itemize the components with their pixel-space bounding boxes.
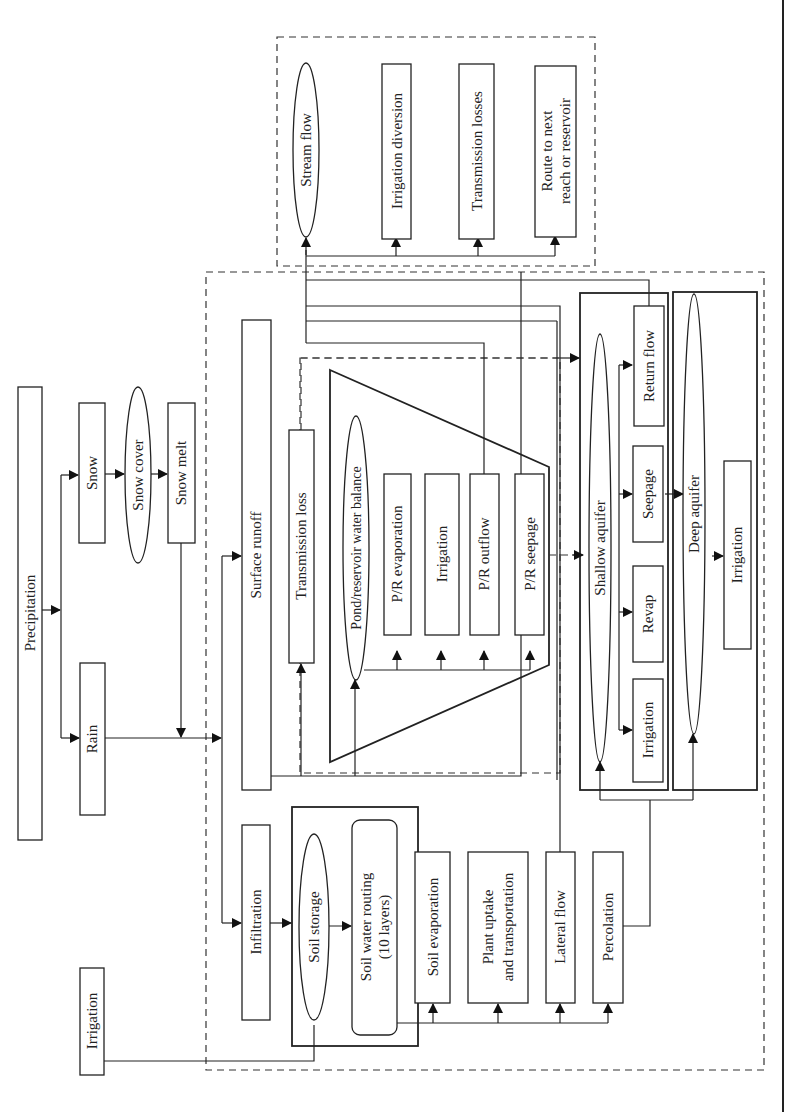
svg-text:Seepage: Seepage <box>640 469 656 519</box>
plant-uptake-box: Plant uptake and transportation <box>468 852 528 1003</box>
precipitation-box: Precipitation <box>18 387 42 840</box>
lateral-flow-box: Lateral flow <box>546 852 575 1003</box>
svg-text:Return flow: Return flow <box>641 330 657 402</box>
stream-flow-ellipse: Stream flow <box>293 63 319 237</box>
svg-text:Deep aquifer: Deep aquifer <box>686 475 702 553</box>
deep-aquifer-ellipse: Deep aquifer <box>683 294 705 734</box>
svg-text:Surface runoff: Surface runoff <box>248 512 264 599</box>
svg-text:Soil evaporation: Soil evaporation <box>425 877 441 976</box>
snow-cover-ellipse: Snow cover <box>125 387 151 563</box>
svg-text:Irrigation: Irrigation <box>434 525 450 582</box>
svg-text:and transportation: and transportation <box>500 872 516 981</box>
svg-text:Lateral flow: Lateral flow <box>552 890 568 964</box>
svg-text:Snow cover: Snow cover <box>130 439 146 510</box>
svg-text:Irrigation diversion: Irrigation diversion <box>389 92 405 209</box>
svg-text:Irrigation: Irrigation <box>84 992 100 1049</box>
route-next-box: Route to next reach or reservoir <box>535 66 576 237</box>
pr-irrigation-box: Irrigation <box>425 474 459 635</box>
pr-outflow-box: P/R outflow <box>470 474 499 635</box>
svg-text:Soil water routing: Soil water routing <box>358 872 374 981</box>
irrigation-input-box: Irrigation <box>80 968 104 1075</box>
svg-text:P/R outflow: P/R outflow <box>476 517 492 590</box>
svg-text:Snow melt: Snow melt <box>173 440 189 505</box>
pr-evaporation-box: P/R evaporation <box>384 474 411 635</box>
svg-text:Snow: Snow <box>84 456 100 490</box>
transmission-loss-box: Transmission loss <box>289 430 314 663</box>
svg-text:Shallow aquifer: Shallow aquifer <box>592 500 608 595</box>
irrigation-diversion-box: Irrigation diversion <box>382 64 411 239</box>
irrigation-to-soil <box>104 1025 314 1061</box>
svg-text:reach or reservoir: reach or reservoir <box>557 98 573 204</box>
hydrology-flow-diagram: Precipitation Snow Rain Snow cover Snow … <box>0 0 785 1112</box>
svg-text:Rain: Rain <box>84 724 100 753</box>
percolation-box: Percolation <box>593 852 623 1003</box>
svg-text:Route to next: Route to next <box>539 110 555 192</box>
shallow-aquifer-ellipse: Shallow aquifer <box>589 334 611 762</box>
pr-outflow-to-stream <box>306 343 484 480</box>
svg-text:Infiltration: Infiltration <box>248 889 264 954</box>
svg-text:Transmission loss: Transmission loss <box>293 492 309 600</box>
svg-text:Transmission losses: Transmission losses <box>469 91 485 211</box>
svg-text:Soil storage: Soil storage <box>306 891 322 963</box>
soil-routing-box: Soil water routing (10 layers) <box>352 820 397 1035</box>
svg-text:Precipitation: Precipitation <box>22 574 38 651</box>
pr-seepage-box: P/R seepage <box>515 474 544 635</box>
svg-text:Percolation: Percolation <box>600 892 616 961</box>
percolation-to-aquifer <box>623 800 650 926</box>
sa-irrigation-box: Irrigation <box>633 679 663 782</box>
snow-box: Snow <box>79 403 105 543</box>
svg-text:Stream flow: Stream flow <box>298 113 314 187</box>
svg-text:Irrigation: Irrigation <box>640 701 656 758</box>
surface-runoff-box: Surface runoff <box>242 320 271 790</box>
soil-evaporation-box: Soil evaporation <box>415 852 450 1003</box>
svg-text:Pond/reservoir water balance: Pond/reservoir water balance <box>349 466 364 629</box>
rain-box: Rain <box>80 663 105 815</box>
svg-text:Revap: Revap <box>640 595 656 633</box>
infiltration-box: Infiltration <box>242 825 270 1020</box>
transmission-losses-box: Transmission losses <box>459 64 494 239</box>
svg-text:P/R seepage: P/R seepage <box>522 517 538 591</box>
svg-text:P/R evaporation: P/R evaporation <box>389 505 405 603</box>
seepage-box: Seepage <box>633 446 663 542</box>
soil-storage-ellipse: Soil storage <box>299 834 329 1020</box>
revap-box: Revap <box>633 566 663 662</box>
snow-melt-box: Snow melt <box>168 403 195 543</box>
svg-text:(10 layers): (10 layers) <box>376 895 393 960</box>
return-flow-box: Return flow <box>634 306 664 426</box>
svg-text:Irrigation: Irrigation <box>729 526 745 583</box>
pond-balance-ellipse: Pond/reservoir water balance <box>343 416 369 680</box>
da-irrigation-box: Irrigation <box>724 461 751 649</box>
svg-text:Plant uptake: Plant uptake <box>480 889 496 964</box>
